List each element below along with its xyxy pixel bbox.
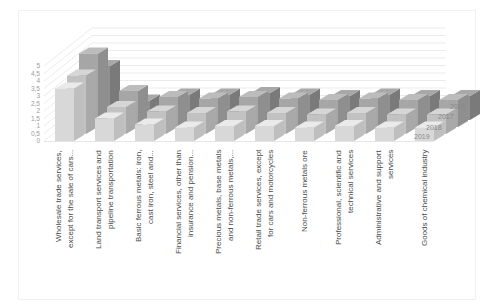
depth-label-2019: 2019	[414, 133, 430, 140]
y-tick-label: 3,5	[8, 85, 40, 93]
category-label-0: Wholesale trade services, except for the…	[53, 150, 77, 302]
category-label-3: Financial services, other than insurance…	[173, 150, 197, 302]
y-tick-label: 5	[8, 62, 40, 70]
category-label-8: Administrative and support services	[373, 150, 397, 302]
category-label-4: Precious metals, base metals and non-fer…	[213, 150, 237, 302]
y-tick-label: 2,5	[8, 100, 40, 108]
bar-2019-cat0[interactable]	[55, 83, 84, 142]
category-label-6: Non-ferrous metals ore	[299, 150, 311, 302]
y-tick-label: 0,5	[8, 130, 40, 138]
category-label-5: Retail trade services, except for cars a…	[253, 150, 277, 302]
y-tick-label: 1,5	[8, 115, 40, 123]
chart-container: 00,511,522,533,544,55 2016201720182019 W…	[0, 0, 493, 307]
category-label-2: Basic ferrous metals: iron, cast iron, s…	[133, 150, 157, 302]
y-tick-label: 4	[8, 77, 40, 85]
category-label-7: Professional, scientific and technical s…	[333, 150, 357, 302]
y-tick-label: 1	[8, 122, 40, 130]
y-tick-label: 0	[8, 137, 40, 145]
category-label-9: Goods of chemical industry	[419, 150, 431, 302]
bar-2019-cat1[interactable]	[95, 113, 124, 142]
depth-label-2018: 2018	[426, 124, 442, 131]
y-tick-label: 2	[8, 107, 40, 115]
category-label-1: Land transport services and pipeline tra…	[93, 150, 117, 302]
y-tick-label: 3	[8, 92, 40, 100]
depth-label-2016: 2016	[450, 103, 466, 110]
depth-label-2017: 2017	[438, 113, 454, 120]
y-tick-label: 4,5	[8, 70, 40, 78]
